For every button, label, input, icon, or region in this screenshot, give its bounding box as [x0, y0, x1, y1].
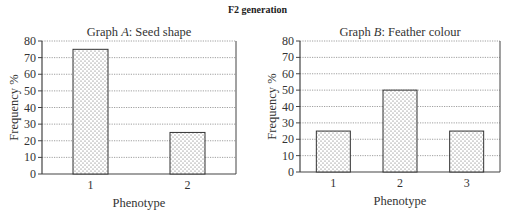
chart-title: Graph A: Seed shape [87, 25, 192, 39]
y-axis-label: Frequency % [7, 74, 21, 140]
y-tick-label: 30 [282, 116, 294, 130]
bar-phenotype-3 [450, 131, 484, 172]
bar-phenotype-2 [383, 90, 417, 172]
y-tick-label: 80 [24, 34, 36, 48]
y-tick-label: 10 [24, 150, 36, 164]
chart-title: Graph B: Feather colour [339, 25, 461, 39]
y-tick-label: 70 [24, 51, 36, 65]
y-tick-label: 0 [30, 167, 36, 181]
x-tick-label: 1 [330, 176, 336, 190]
charts-canvas: 0102030405060708012Graph A: Seed shapePh… [0, 0, 515, 215]
y-tick-label: 40 [24, 101, 36, 115]
y-tick-label: 40 [282, 100, 294, 114]
y-tick-label: 30 [24, 117, 36, 131]
y-tick-label: 50 [282, 83, 294, 97]
x-tick-label: 2 [185, 178, 191, 192]
x-axis-label: Phenotype [113, 196, 166, 210]
bar-phenotype-1 [316, 131, 350, 172]
y-tick-label: 10 [282, 149, 294, 163]
bar-phenotype-1 [73, 49, 108, 174]
x-tick-label: 1 [88, 178, 94, 192]
bar-phenotype-2 [170, 132, 205, 174]
x-tick-label: 3 [464, 176, 470, 190]
y-tick-label: 60 [24, 67, 36, 81]
chart-graph-a: 0102030405060708012Graph A: Seed shapePh… [7, 25, 236, 210]
y-tick-label: 20 [282, 132, 294, 146]
y-tick-label: 60 [282, 67, 294, 81]
chart-graph-b: 01020304050607080123Graph B: Feather col… [265, 25, 500, 208]
y-tick-label: 50 [24, 84, 36, 98]
y-tick-label: 20 [24, 134, 36, 148]
x-tick-label: 2 [397, 176, 403, 190]
x-axis-label: Phenotype [374, 194, 427, 208]
y-axis-label: Frequency % [265, 73, 279, 139]
y-tick-label: 70 [282, 50, 294, 64]
y-tick-label: 0 [288, 165, 294, 179]
y-tick-label: 80 [282, 34, 294, 48]
